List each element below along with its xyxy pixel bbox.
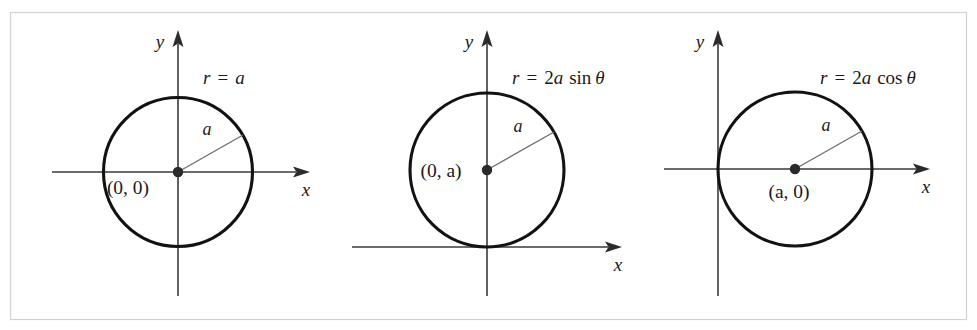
panel-2-center-label: (0, a) bbox=[420, 160, 461, 182]
panel-3-center-dot bbox=[790, 164, 800, 174]
panel-1-equation: r=a bbox=[203, 67, 245, 88]
panel-2-group: y x r=2asinθ a (0, a) bbox=[352, 30, 623, 296]
panel-3-y-axis-label: y bbox=[694, 31, 705, 52]
panel-3-radius-line bbox=[795, 131, 862, 169]
panel-3-equation-equals: = bbox=[834, 67, 845, 88]
panel-1-center-dot bbox=[173, 167, 183, 177]
panel-1-group: y x r=a a (0, 0) bbox=[52, 30, 311, 296]
panel-3-equation-rhs-var: a bbox=[862, 67, 872, 88]
panel-3-equation-func: cos bbox=[877, 67, 902, 88]
panel-1-equation-lhs: r bbox=[203, 67, 211, 88]
panel-1-radius-line bbox=[178, 135, 243, 172]
figure-canvas: y x r=a a (0, 0) y bbox=[0, 0, 977, 330]
panel-2-equation-func: sin bbox=[569, 67, 592, 88]
panel-3-x-axis-label: x bbox=[921, 176, 931, 197]
panel-2-equation-equals: = bbox=[526, 67, 537, 88]
panel-2-equation-theta: θ bbox=[595, 67, 604, 88]
panel-3-radius-label: a bbox=[822, 115, 831, 135]
panel-1-center-label: (0, 0) bbox=[107, 177, 149, 199]
panel-2-y-axis-label: y bbox=[463, 31, 474, 52]
panel-3-equation-theta: θ bbox=[906, 67, 915, 88]
panel-1-x-axis-label: x bbox=[301, 179, 311, 200]
panel-2-radius-label: a bbox=[514, 116, 523, 136]
panel-2-center-dot bbox=[482, 165, 492, 175]
panel-1-radius-label: a bbox=[203, 119, 212, 139]
panel-3-equation-coeff: 2 bbox=[852, 67, 862, 88]
polar-circles-figure: y x r=a a (0, 0) y bbox=[0, 0, 977, 330]
panel-3-center-label: (a, 0) bbox=[768, 181, 809, 203]
panel-3-equation: r=2acosθ bbox=[820, 67, 916, 88]
panel-2-equation-rhs-var: a bbox=[554, 67, 564, 88]
panel-1-y-axis-label: y bbox=[154, 31, 165, 52]
panel-2-equation-lhs: r bbox=[512, 67, 520, 88]
panel-2-x-axis-label: x bbox=[613, 254, 623, 275]
panel-1-equation-equals: = bbox=[217, 67, 228, 88]
panel-3-equation-lhs: r bbox=[820, 67, 828, 88]
panel-2-equation: r=2asinθ bbox=[512, 67, 605, 88]
panel-2-equation-coeff: 2 bbox=[544, 67, 554, 88]
panel-2-radius-line bbox=[487, 132, 554, 170]
panel-1-equation-rhs-var: a bbox=[235, 67, 245, 88]
panel-3-group: y x r=2acosθ a (a, 0) bbox=[664, 30, 931, 296]
